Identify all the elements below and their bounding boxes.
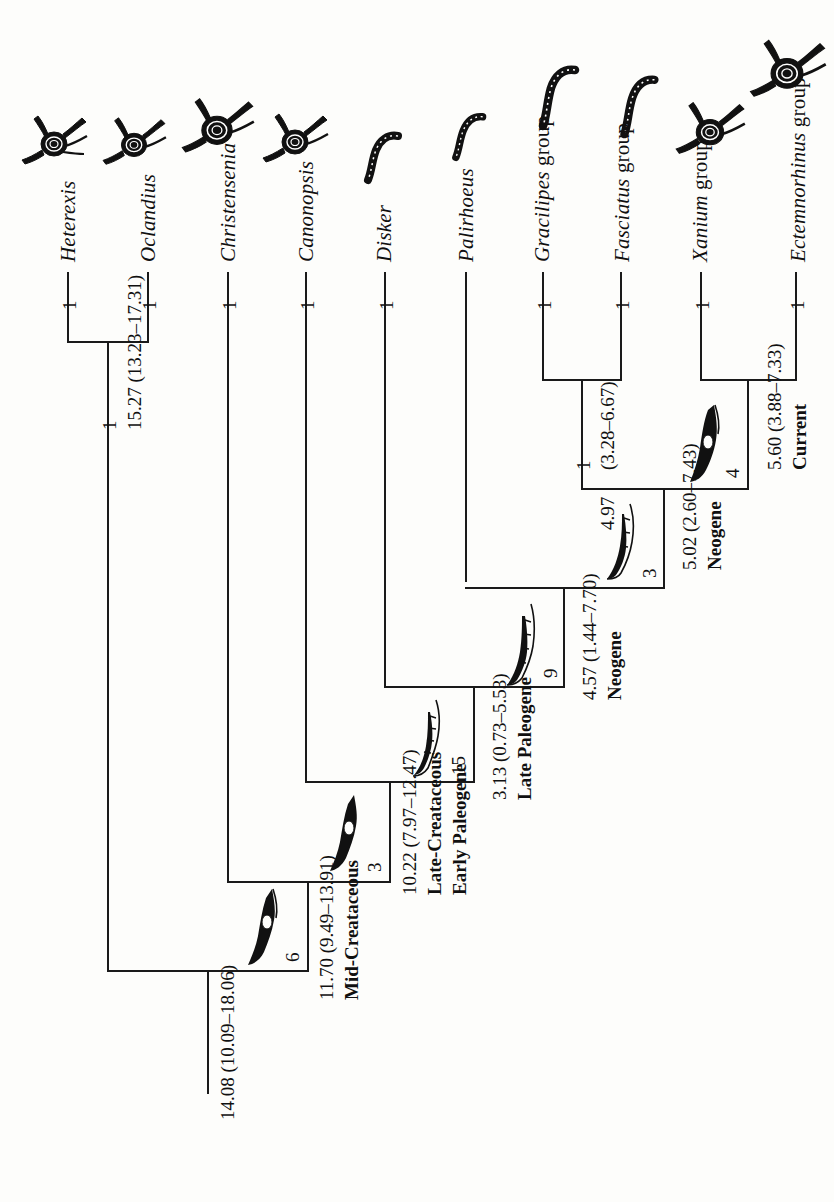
support-value-canonopsis: 1 bbox=[298, 301, 317, 311]
node-stem-late-cret-early-pal bbox=[389, 781, 391, 882]
node-stem-mid-cretaceous bbox=[307, 881, 309, 971]
taxon-label-palirhoeus: Palirhoeus bbox=[456, 168, 477, 262]
phylogenetic-tree-figure: Heterexis Oclandius Christensenia Canono… bbox=[0, 0, 834, 1202]
group-suffix: group bbox=[786, 77, 810, 132]
age-label-current: 5.60 (3.88–7.33) bbox=[765, 343, 784, 470]
node-bar-neogene-late bbox=[581, 488, 749, 490]
support-value-christensenia: 1 bbox=[220, 301, 239, 311]
branch-ectemnorhinus bbox=[795, 272, 797, 380]
taxon-label-ectemnorhinus-group: Ectemnorhinus group bbox=[788, 77, 809, 262]
support-value-heterexis-oclandius-node: 1 bbox=[100, 421, 119, 431]
support-value-ectemnorhinus: 1 bbox=[788, 301, 807, 311]
period-label-early-paleogene: Early Paleogene bbox=[450, 764, 469, 895]
weevil-icon bbox=[18, 110, 90, 172]
age-label-mid-cretaceous: 11.70 (9.49–13.91) bbox=[317, 855, 336, 1000]
group-suffix: group bbox=[530, 116, 554, 171]
weevil-icon bbox=[98, 112, 170, 172]
branch-xanium bbox=[700, 272, 702, 380]
node-stem-root bbox=[207, 970, 209, 1094]
period-label-neogene-early: Neogene bbox=[605, 631, 624, 700]
age-label-root: 14.08 (10.09–18.06) bbox=[218, 965, 237, 1120]
node-stem-heterexis-oclandius bbox=[107, 341, 109, 971]
taxon-label-oclandius: Oclandius bbox=[138, 174, 159, 262]
taxon-label-fasciatus-group: Fasciatus group bbox=[612, 123, 633, 262]
landmass-outline-icon bbox=[498, 600, 546, 686]
period-label-mid-cretaceous: Mid-Creataceous bbox=[342, 860, 361, 1000]
node-bar-neogene-early bbox=[465, 587, 665, 589]
support-value-gracilipes-fasciatus-node: 1 bbox=[574, 461, 593, 471]
landmass-silhouette-icon bbox=[240, 886, 286, 968]
node-stem-xanium-ectemnorhinus bbox=[747, 379, 749, 489]
group-suffix: group bbox=[610, 123, 634, 178]
group-suffix: group bbox=[688, 140, 712, 195]
age-label-late-paleogene: 3.13 (0.73–5.53) bbox=[490, 673, 509, 800]
taxon-label-heterexis: Heterexis bbox=[58, 181, 79, 262]
landmass-silhouette-icon bbox=[682, 402, 728, 484]
landmass-outline-icon bbox=[406, 696, 452, 778]
period-label-neogene-late: Neogene bbox=[705, 501, 724, 570]
larva-icon bbox=[442, 108, 490, 168]
node-bar-mid-cretaceous bbox=[227, 881, 391, 883]
age-label-neogene-early: 4.57 (1.44–7.70) bbox=[580, 573, 599, 700]
taxon-label-canonopsis: Canonopsis bbox=[296, 161, 317, 262]
taxon-label-gracilipes-group: Gracilipes group bbox=[532, 116, 553, 262]
node-stem-neogene-late bbox=[663, 488, 665, 588]
branch-disker bbox=[384, 272, 386, 686]
node-stem-neogene-early bbox=[563, 587, 565, 687]
landmass-outline-icon bbox=[600, 500, 644, 580]
branch-gracilipes bbox=[542, 272, 544, 380]
node-stem-gracilipes-fasciatus bbox=[581, 379, 583, 489]
larva-icon bbox=[352, 128, 404, 190]
taxon-label-xanium-group: Xanium group bbox=[690, 140, 711, 262]
support-value-gracilipes: 1 bbox=[535, 301, 554, 311]
taxon-label-christensenia: Christensenia bbox=[218, 143, 239, 262]
branch-christensenia bbox=[227, 272, 229, 882]
period-label-late-paleogene: Late Paleogene bbox=[515, 677, 534, 800]
node-stem-late-paleogene bbox=[473, 686, 475, 782]
support-value-disker: 1 bbox=[377, 301, 396, 311]
age-ci-gracilipes-fasciatus: (3.28–6.67) bbox=[598, 381, 617, 470]
period-label-current: Current bbox=[790, 404, 809, 470]
branch-fasciatus bbox=[620, 272, 622, 380]
support-value-fasciatus: 1 bbox=[613, 301, 632, 311]
landmass-silhouette-icon bbox=[322, 792, 368, 874]
branch-palirhoeus bbox=[465, 272, 467, 582]
support-value-xanium: 1 bbox=[693, 301, 712, 311]
taxon-label-disker: Disker bbox=[374, 205, 395, 262]
branch-canonopsis bbox=[305, 272, 307, 782]
support-value-heterexis: 1 bbox=[60, 301, 79, 311]
age-label-heterexis-oclandius: 15.27 (13.23–17.31) bbox=[125, 275, 144, 430]
